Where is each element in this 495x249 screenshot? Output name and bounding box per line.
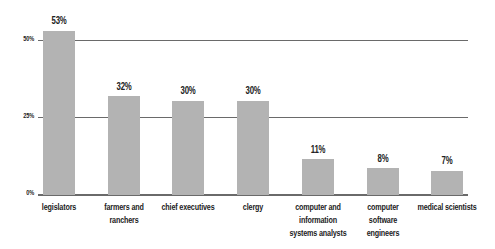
category-label-line: farmers and [94, 201, 155, 214]
value-label-clergy: 30% [234, 85, 273, 96]
bar-legislators [43, 31, 75, 195]
category-label-computer-information-systems-analysts: computer and information systems analyst… [288, 201, 349, 240]
category-label-clergy: clergy [223, 201, 284, 214]
value-label-medical-scientists: 7% [428, 155, 467, 166]
bar-computer-information-systems-analysts [302, 159, 334, 195]
value-label-computer-software-engineers: 8% [364, 153, 403, 164]
category-label-line: engineers [353, 227, 414, 240]
category-label-line: computer and [288, 201, 349, 214]
category-label-medical-scientists: medical scientists [417, 201, 478, 214]
category-label-line: computer software [353, 201, 414, 227]
bar-chief-executives [172, 101, 204, 195]
category-label-line: ranchers [94, 214, 155, 227]
value-label-farmers-and-ranchers: 32% [105, 81, 144, 92]
bar-chart: 50% 25% 0% 53% legislators 32% farmers a… [0, 0, 495, 249]
category-label-legislators: legislators [29, 201, 90, 214]
gridline-50 [38, 40, 468, 41]
category-label-computer-software-engineers: computer software engineers [353, 201, 414, 240]
bar-clergy [237, 101, 269, 195]
category-label-line: chief executives [158, 201, 219, 214]
category-label-line: information [288, 214, 349, 227]
value-label-chief-executives: 30% [169, 85, 208, 96]
category-label-line: clergy [223, 201, 284, 214]
y-tick-label-50: 50% [16, 35, 34, 42]
bar-medical-scientists [431, 171, 463, 195]
category-label-line: legislators [29, 201, 90, 214]
category-label-chief-executives: chief executives [158, 201, 219, 214]
value-label-computer-information-systems-analysts: 11% [299, 144, 338, 155]
category-label-line: medical scientists [417, 201, 478, 214]
category-label-line: systems analysts [288, 227, 349, 240]
value-label-legislators: 53% [40, 15, 79, 26]
y-tick-label-25: 25% [16, 112, 34, 119]
bar-computer-software-engineers [367, 168, 399, 195]
y-tick-label-0: 0% [16, 189, 34, 196]
category-label-farmers-and-ranchers: farmers and ranchers [94, 201, 155, 227]
bar-farmers-and-ranchers [108, 96, 140, 195]
